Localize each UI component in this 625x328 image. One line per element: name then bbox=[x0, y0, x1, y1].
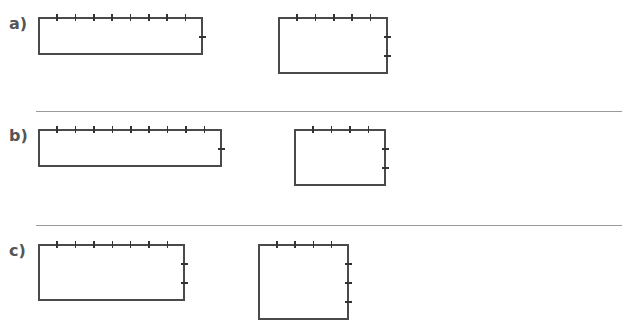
tick-mark-top bbox=[351, 14, 353, 21]
tick-mark-right bbox=[384, 36, 391, 38]
tick-mark-top bbox=[370, 14, 372, 21]
problem-label-c: c) bbox=[9, 243, 26, 259]
tick-mark-top bbox=[185, 126, 187, 133]
tick-mark-right bbox=[218, 148, 225, 150]
rectangle-b-2 bbox=[294, 129, 386, 186]
tick-mark-top bbox=[75, 241, 77, 248]
tick-mark-top bbox=[75, 126, 77, 133]
rectangle-a-1 bbox=[38, 17, 203, 55]
tick-mark-top bbox=[315, 14, 317, 21]
tick-mark-top bbox=[56, 14, 58, 21]
tick-mark-top bbox=[148, 14, 150, 21]
section-divider-1 bbox=[36, 111, 622, 112]
problem-label-a: a) bbox=[9, 16, 27, 32]
tick-mark-top bbox=[112, 241, 114, 248]
rectangle-c-1 bbox=[38, 244, 185, 301]
tick-mark-right bbox=[181, 263, 188, 265]
tick-mark-top bbox=[112, 126, 114, 133]
tick-mark-top bbox=[368, 126, 370, 133]
rectangle-a-2 bbox=[278, 17, 388, 74]
problem-label-b: b) bbox=[9, 128, 28, 144]
tick-mark-right bbox=[382, 148, 389, 150]
tick-mark-right bbox=[382, 167, 389, 169]
tick-mark-top bbox=[204, 126, 206, 133]
tick-mark-right bbox=[181, 282, 188, 284]
tick-mark-top bbox=[185, 14, 187, 21]
tick-mark-top bbox=[130, 241, 132, 248]
section-divider-2 bbox=[36, 225, 622, 226]
tick-mark-top bbox=[167, 241, 169, 248]
tick-mark-top bbox=[166, 14, 168, 21]
tick-mark-top bbox=[56, 241, 58, 248]
tick-mark-top bbox=[93, 14, 95, 21]
tick-mark-right bbox=[384, 55, 391, 57]
tick-mark-top bbox=[56, 126, 58, 133]
tick-mark-top bbox=[93, 241, 95, 248]
tick-mark-top bbox=[333, 14, 335, 21]
tick-mark-top bbox=[276, 241, 278, 248]
tick-mark-right bbox=[345, 263, 352, 265]
tick-mark-top bbox=[349, 126, 351, 133]
tick-mark-top bbox=[296, 14, 298, 21]
tick-mark-top bbox=[148, 126, 150, 133]
rectangle-c-2 bbox=[258, 244, 349, 320]
tick-mark-top bbox=[75, 14, 77, 21]
tick-mark-top bbox=[111, 14, 113, 21]
tick-mark-top bbox=[331, 241, 333, 248]
tick-mark-top bbox=[312, 126, 314, 133]
tick-mark-top bbox=[294, 241, 296, 248]
rectangle-b-1 bbox=[38, 129, 222, 167]
tick-mark-right bbox=[345, 301, 352, 303]
tick-mark-top bbox=[93, 126, 95, 133]
tick-mark-right bbox=[345, 282, 352, 284]
tick-mark-top bbox=[130, 126, 132, 133]
tick-mark-top bbox=[331, 126, 333, 133]
tick-mark-top bbox=[167, 126, 169, 133]
tick-mark-right bbox=[199, 36, 206, 38]
tick-mark-top bbox=[313, 241, 315, 248]
tick-mark-top bbox=[130, 14, 132, 21]
tick-mark-top bbox=[148, 241, 150, 248]
